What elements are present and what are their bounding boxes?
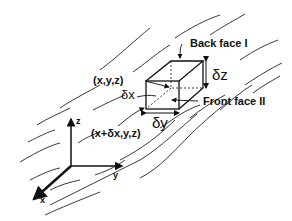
fluid-element-diagram: Back face I Front face II (x,y,z) (x+δx,… <box>0 0 292 221</box>
diagram-drawing <box>0 0 292 221</box>
z-axis-label: z <box>76 117 81 126</box>
delta-z-label: δz <box>212 67 228 82</box>
delta-y-label: δy <box>152 115 168 130</box>
xyz-leader <box>145 81 169 87</box>
point-x-plus-dx-label: (x+δx,y,z) <box>91 128 141 139</box>
x-dx-leader <box>118 108 144 126</box>
x-axis-label: x <box>40 196 45 205</box>
front-face-label: Front face II <box>203 96 265 107</box>
delta-x-label: δx <box>121 88 135 101</box>
y-axis-label: y <box>113 171 118 180</box>
back-face-leader <box>180 44 182 58</box>
point-xyz-label: (x,y,z) <box>93 75 123 86</box>
front-face-leader <box>172 100 198 101</box>
back-face-label: Back face I <box>190 38 247 49</box>
